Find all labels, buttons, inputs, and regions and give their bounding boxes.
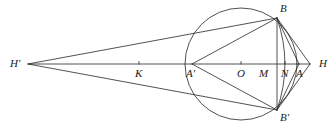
point-label-m: M <box>259 68 268 79</box>
point-label-b-prime: B' <box>280 112 289 123</box>
point-label-n: N <box>281 68 288 79</box>
point-label-a: A <box>296 68 303 79</box>
point-label-k: K <box>135 68 142 79</box>
point-label-b: B <box>280 3 287 14</box>
diagram-strokes <box>28 8 310 120</box>
point-label-a-prime: A' <box>186 68 195 79</box>
point-label-o: O <box>237 68 245 79</box>
segment-B-to-H <box>277 18 310 64</box>
segment-A-prime-to-B <box>192 18 277 64</box>
segment-B-to-A <box>277 18 299 64</box>
figure-canvas <box>0 0 334 127</box>
geometry-figure: H'KA'OMNAHBB' <box>0 0 334 127</box>
segment-H-prime-to-B <box>28 18 277 64</box>
point-label-h-prime: H' <box>10 58 20 69</box>
point-label-h: H <box>319 58 327 69</box>
